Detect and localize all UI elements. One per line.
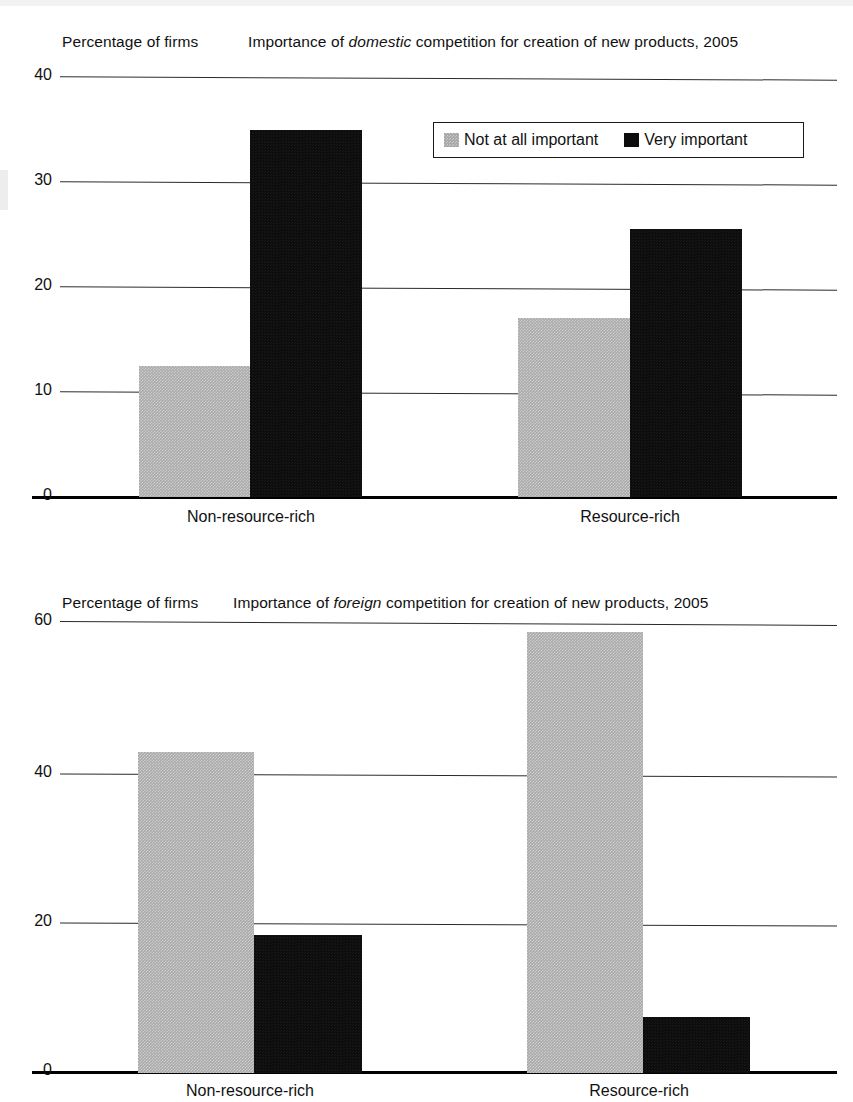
category-label-foreign-resource: Resource-rich: [528, 1082, 750, 1100]
plot-area-foreign: 60 40 20 0 Non-resource-rich Resource-ri…: [0, 576, 853, 1102]
gridline-30: [60, 181, 837, 185]
bar-foreign-resource-very-important: [643, 1017, 750, 1073]
legend-entry-very-important: Very important: [624, 131, 747, 149]
category-label-domestic-resource: Resource-rich: [519, 508, 741, 526]
y-tick-label-40: 40: [0, 763, 52, 781]
bar-domestic-resource-not-important: [518, 318, 630, 497]
legend-swatch-icon-very-important: [624, 133, 639, 147]
y-tick-label-10: 10: [0, 381, 52, 399]
legend-swatch-icon-not-important: [444, 133, 459, 147]
bar-domestic-resource-very-important: [630, 229, 742, 497]
y-tick-label-0: 0: [0, 1061, 52, 1079]
gridline-60: [60, 621, 837, 626]
chart-panel-domestic: Percentage of firms Importance of domest…: [0, 0, 853, 560]
plot-area-domestic: 40 30 20 10 0 Non-resource-rich Resource…: [0, 0, 853, 560]
bar-domestic-nonresource-not-important: [139, 366, 250, 497]
bar-foreign-nonresource-very-important: [254, 935, 362, 1073]
figure-page: Percentage of firms Importance of domest…: [0, 0, 853, 1102]
legend-domestic: Not at all important Very important: [433, 122, 804, 158]
bar-foreign-nonresource-not-important: [138, 752, 254, 1073]
chart-panel-foreign: Percentage of firms Importance of foreig…: [0, 576, 853, 1102]
gridline-40: [60, 76, 837, 80]
bar-domestic-nonresource-very-important: [250, 130, 362, 497]
y-tick-label-20: 20: [0, 276, 52, 294]
bar-foreign-resource-not-important: [527, 632, 643, 1073]
category-label-foreign-nonresource: Non-resource-rich: [139, 1082, 361, 1100]
legend-label-very-important: Very important: [644, 131, 747, 149]
legend-entry-not-important: Not at all important: [444, 131, 598, 149]
y-tick-label-60: 60: [0, 611, 52, 629]
y-tick-label-30: 30: [0, 171, 52, 189]
y-tick-label-0: 0: [0, 486, 52, 504]
legend-label-not-important: Not at all important: [464, 131, 598, 149]
y-tick-label-40: 40: [0, 66, 52, 84]
y-tick-label-20: 20: [0, 912, 52, 930]
category-label-domestic-nonresource: Non-resource-rich: [140, 508, 362, 526]
